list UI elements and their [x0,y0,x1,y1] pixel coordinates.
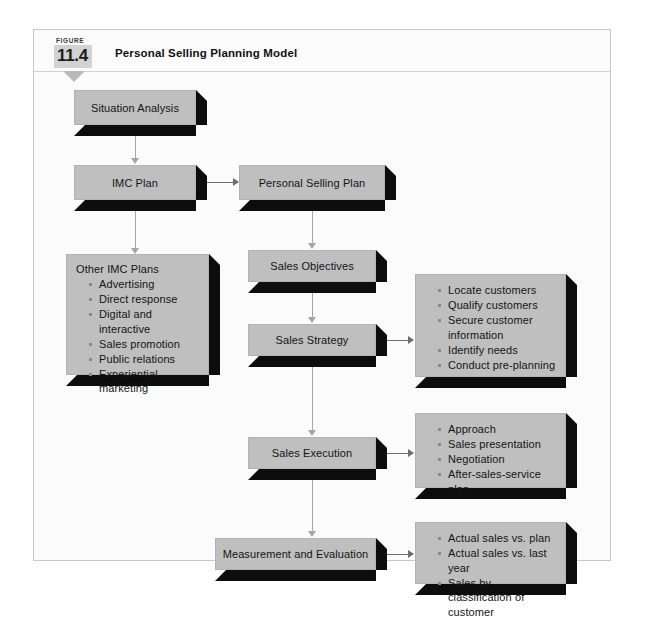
node-situation-analysis[interactable]: Situation Analysis [74,90,196,125]
list-title: Other IMC Plans [76,263,199,275]
arrowhead-measurement-to-detail-icon [408,550,414,558]
list-item: Public relations [89,352,199,367]
node-sales-objectives[interactable]: Sales Objectives [248,250,376,282]
list-item: Advertising [89,277,199,292]
node-bottom-face [415,377,566,388]
list-item: Identify needs [438,343,556,358]
node-measurement-detail[interactable]: Actual sales vs. plan Actual sales vs. l… [415,522,566,584]
node-bottom-face [74,125,196,136]
figure-title: Personal Selling Planning Model [115,47,297,59]
measurement-detail-list: Actual sales vs. plan Actual sales vs. l… [425,531,556,619]
figure-kicker-label: FIGURE [56,37,84,44]
arrowhead-execution-to-detail-icon [408,449,414,457]
diagram-canvas: Situation Analysis IMC Plan Personal Sel… [34,72,610,561]
list-item: Approach [438,422,556,437]
list-item: Qualify customers [438,298,556,313]
list-item: Sales presentation [438,437,556,452]
arrowhead-execution-to-measurement-icon [308,531,316,537]
arrowhead-psp-to-objectives-icon [308,243,316,249]
node-side-face [385,165,396,200]
node-label: Measurement and Evaluation [215,538,376,570]
connector-execution-to-measurement [312,480,313,533]
node-bottom-face [248,282,376,293]
node-sales-execution-detail[interactable]: Approach Sales presentation Negotiation … [415,413,566,488]
node-side-face [209,254,220,375]
node-sales-execution[interactable]: Sales Execution [248,437,376,469]
arrowhead-situation-to-imc-icon [131,158,139,164]
node-content: Locate customers Qualify customers Secur… [415,274,566,377]
node-label: Situation Analysis [74,90,196,125]
list-item: Actual sales vs. plan [438,531,556,546]
list-item: Experiential marketing [89,367,199,396]
node-side-face [566,413,577,488]
figure-number-badge: 11.4 [54,45,92,68]
list-item: Negotiation [438,452,556,467]
other-imc-plans-list: Advertising Direct response Digital and … [76,277,199,396]
connector-situation-to-imc [135,136,136,160]
sales-strategy-detail-list: Locate customers Qualify customers Secur… [425,283,556,372]
list-item: Locate customers [438,283,556,298]
node-content: Approach Sales presentation Negotiation … [415,413,566,488]
node-label: Sales Execution [248,437,376,469]
node-side-face [376,538,387,570]
list-item: Actual sales vs. last year [438,546,556,575]
connector-strategy-to-execution [312,367,313,432]
arrowhead-strategy-to-execution-icon [308,430,316,436]
node-personal-selling-plan[interactable]: Personal Selling Plan [239,165,385,200]
node-side-face [376,324,387,356]
arrowhead-strategy-to-detail-icon [408,336,414,344]
node-label: IMC Plan [74,165,196,200]
node-sales-strategy[interactable]: Sales Strategy [248,324,376,356]
node-content: Other IMC Plans Advertising Direct respo… [66,254,209,375]
list-item: Sales by classification of customer [438,576,556,619]
node-bottom-face [239,200,385,211]
node-bottom-face [74,200,196,211]
node-side-face [196,165,207,200]
list-item: Direct response [89,292,199,307]
connector-objectives-to-strategy [312,293,313,319]
list-item: Secure customer information [438,313,556,342]
node-imc-plan[interactable]: IMC Plan [74,165,196,200]
sales-execution-detail-list: Approach Sales presentation Negotiation … [425,422,556,496]
connector-psp-to-objectives [312,211,313,245]
node-other-imc-plans[interactable]: Other IMC Plans Advertising Direct respo… [66,254,209,375]
figure-header: FIGURE 11.4 Personal Selling Planning Mo… [34,30,610,72]
node-side-face [376,250,387,282]
node-bottom-face [248,356,376,367]
connector-imc-to-other [135,211,136,250]
node-side-face [376,437,387,469]
node-content: Actual sales vs. plan Actual sales vs. l… [415,522,566,584]
figure-frame: FIGURE 11.4 Personal Selling Planning Mo… [33,29,611,561]
node-measurement-and-evaluation[interactable]: Measurement and Evaluation [215,538,376,570]
node-side-face [566,522,577,584]
node-label: Sales Objectives [248,250,376,282]
node-side-face [196,90,207,125]
list-item: Conduct pre-planning [438,358,556,373]
list-item: Sales promotion [89,337,199,352]
node-bottom-face [248,469,376,480]
node-sales-strategy-detail[interactable]: Locate customers Qualify customers Secur… [415,274,566,377]
node-label: Personal Selling Plan [239,165,385,200]
node-side-face [566,274,577,377]
node-label: Sales Strategy [248,324,376,356]
node-bottom-face [215,570,376,581]
list-item: After-sales-service plan [438,467,556,496]
list-item: Digital and interactive [89,307,199,336]
arrowhead-objectives-to-strategy-icon [308,317,316,323]
